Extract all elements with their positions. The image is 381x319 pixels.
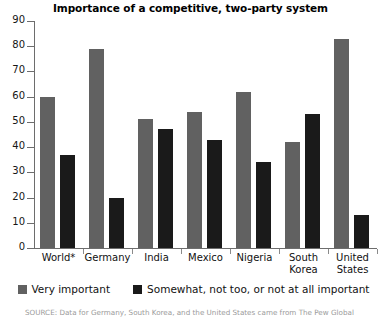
- bar-very-important: [40, 97, 55, 248]
- bar-chart-figure: Importance of a competitive, two-party s…: [0, 0, 381, 319]
- plot-area: [34, 21, 377, 248]
- bar-somewhat-not-important: [109, 198, 124, 248]
- bar-group: [230, 21, 279, 248]
- legend-item[interactable]: Somewhat, not too, or not at all importa…: [133, 283, 369, 295]
- bar-very-important: [89, 49, 104, 248]
- chart-legend: Very importantSomewhat, not too, or not …: [0, 283, 381, 299]
- y-axis-tick-label: 90: [1, 14, 25, 25]
- y-axis-tick-label: 60: [1, 90, 25, 101]
- legend-swatch-icon: [18, 285, 27, 294]
- bar-very-important: [236, 92, 251, 248]
- legend-swatch-icon: [133, 285, 142, 294]
- bar-group: [83, 21, 132, 248]
- bar-group: [279, 21, 328, 248]
- bar-group: [132, 21, 181, 248]
- y-axis-tick: [27, 248, 35, 249]
- bar-somewhat-not-important: [354, 215, 369, 248]
- source-note: SOURCE: Data for Germany, South Korea, a…: [25, 308, 381, 317]
- bar-somewhat-not-important: [60, 155, 75, 248]
- y-axis-tick-label: 30: [1, 165, 25, 176]
- y-axis-tick-label: 10: [1, 216, 25, 227]
- bar-group: [34, 21, 83, 248]
- bar-group: [328, 21, 377, 248]
- y-axis-tick-label: 80: [1, 39, 25, 50]
- y-axis-tick-label: 50: [1, 115, 25, 126]
- bar-somewhat-not-important: [305, 114, 320, 248]
- legend-label: Somewhat, not too, or not at all importa…: [147, 283, 369, 295]
- x-axis-line: [34, 248, 377, 249]
- bar-very-important: [285, 142, 300, 248]
- bar-very-important: [138, 119, 153, 248]
- y-axis-tick-label: 70: [1, 64, 25, 75]
- bar-somewhat-not-important: [207, 140, 222, 248]
- bar-group: [181, 21, 230, 248]
- chart-title: Importance of a competitive, two-party s…: [0, 2, 381, 14]
- y-axis-tick-label: 0: [1, 241, 25, 252]
- legend-label: Very important: [32, 283, 111, 295]
- x-axis-group-separator: [377, 249, 378, 254]
- bar-somewhat-not-important: [256, 162, 271, 248]
- x-axis-category-label: UnitedStates: [324, 252, 381, 275]
- y-axis-tick-label: 20: [1, 191, 25, 202]
- bar-very-important: [334, 39, 349, 248]
- bar-somewhat-not-important: [158, 129, 173, 248]
- bar-very-important: [187, 112, 202, 248]
- legend-item[interactable]: Very important: [18, 283, 111, 295]
- y-axis-tick-label: 40: [1, 140, 25, 151]
